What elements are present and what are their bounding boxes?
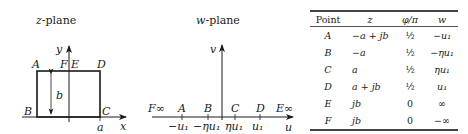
table-row: A −a + jb ½ −u₁ [310, 27, 458, 45]
table-row: D a + jb ½ u₁ [310, 78, 458, 95]
u-axis-label: u [285, 122, 292, 133]
header-point: Point [310, 11, 346, 27]
table-header-row: Point z φ/π w [310, 11, 458, 27]
header-w: w [426, 11, 458, 27]
corner-label-f: F [60, 59, 68, 70]
x-axis-label: x [120, 121, 126, 132]
table-row: B −a ½ −ηu₁ [310, 44, 458, 61]
point-label-e-inf: E∞ [276, 103, 293, 114]
height-label-b: b [56, 90, 63, 101]
corner-label-b: B [24, 106, 32, 117]
point-label-d: D [256, 103, 265, 114]
header-z: z [346, 11, 394, 27]
corner-label-e: E [71, 59, 79, 70]
table-row: E jb 0 ∞ [310, 95, 458, 112]
corner-label-a: A [32, 59, 40, 70]
tick-label-neg-eta-u1: −ηu₁ [193, 121, 220, 132]
z-plane-title: z-plane [36, 14, 76, 27]
tick-label-neg-u1: −u₁ [168, 121, 189, 132]
correspondence-table: Point z φ/π w A −a + jb ½ −u₁ B −a ½ −ηu… [310, 10, 458, 131]
tick-label-u1: u₁ [252, 121, 264, 132]
corner-label-c: C [102, 106, 110, 117]
w-plane-title: w-plane [196, 14, 240, 27]
w-plane-figure [152, 45, 293, 120]
y-axis-label: y [56, 44, 62, 55]
point-label-c: C [231, 103, 239, 114]
table-row: C a ½ ηu₁ [310, 61, 458, 78]
header-phi: φ/π [394, 11, 426, 27]
corner-label-d: D [97, 59, 106, 70]
v-axis-label: v [210, 44, 216, 55]
point-label-b: B [204, 103, 212, 114]
table-row: F jb 0 −∞ [310, 112, 458, 130]
point-label-a: A [178, 103, 186, 114]
point-label-f-inf: F∞ [148, 103, 165, 114]
tick-label-eta-u1: ηu₁ [225, 121, 243, 132]
width-label-a: a [97, 122, 104, 133]
